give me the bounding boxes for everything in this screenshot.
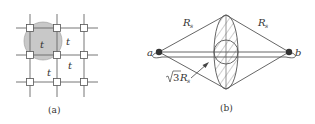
cell-label: t bbox=[66, 36, 71, 47]
node-b-label: b bbox=[295, 47, 301, 58]
node-b bbox=[286, 49, 292, 55]
svg-text:3: 3 bbox=[173, 72, 179, 83]
panel-b: a b R s R s 3 R s (b) bbox=[147, 15, 301, 113]
node-a-label: a bbox=[147, 47, 153, 58]
cell-label: t bbox=[47, 67, 52, 78]
cell-label: t bbox=[68, 60, 73, 71]
pointer-label: 3 R s bbox=[166, 71, 190, 84]
node-a bbox=[156, 49, 162, 55]
caption-a: (a) bbox=[48, 105, 60, 115]
edge-right-sub: s bbox=[265, 22, 268, 29]
pointer-label-sub: s bbox=[187, 77, 190, 84]
caption-b: (b) bbox=[220, 103, 233, 113]
panel-a: t t t t (a) bbox=[16, 14, 98, 115]
figure-canvas: t t t t (a) a b bbox=[0, 0, 315, 124]
edge-left-sub: s bbox=[190, 22, 193, 29]
